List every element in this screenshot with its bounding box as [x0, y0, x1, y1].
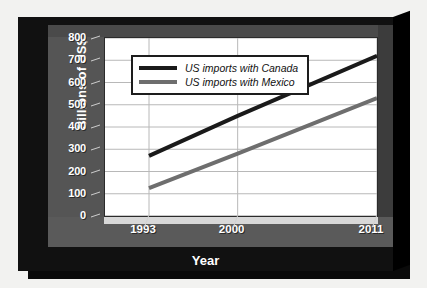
y-tick-label: 100 [46, 187, 86, 199]
legend-swatch-mexico [139, 80, 177, 84]
y-tick-label: 400 [46, 120, 86, 132]
x-tick-label: 2000 [202, 223, 262, 235]
frame-front-face: Billions of US$ 800700600500400300200100… [18, 17, 393, 271]
y-tick-label: 700 [46, 53, 86, 65]
plot-wall-right [378, 25, 393, 217]
x-tick-label: 2011 [341, 223, 401, 235]
y-tick-label: 500 [46, 98, 86, 110]
chart-legend: US imports with Canada US imports with M… [131, 55, 309, 95]
legend-item: US imports with Mexico [139, 75, 298, 89]
y-tick-label: 200 [46, 165, 86, 177]
y-tick-label: 0 [46, 209, 86, 221]
chart-figure: Billions of US$ 800700600500400300200100… [18, 9, 410, 279]
y-tick-label: 300 [46, 142, 86, 154]
y-tick-label: 800 [46, 31, 86, 43]
legend-label-canada: US imports with Canada [185, 62, 298, 74]
legend-swatch-canada [139, 66, 177, 70]
x-axis-title: Year [18, 253, 393, 268]
legend-item: US imports with Canada [139, 61, 298, 75]
series-line [149, 98, 377, 188]
y-tick-label: 600 [46, 76, 86, 88]
x-tick-label: 1993 [113, 223, 173, 235]
legend-label-mexico: US imports with Mexico [185, 76, 295, 88]
